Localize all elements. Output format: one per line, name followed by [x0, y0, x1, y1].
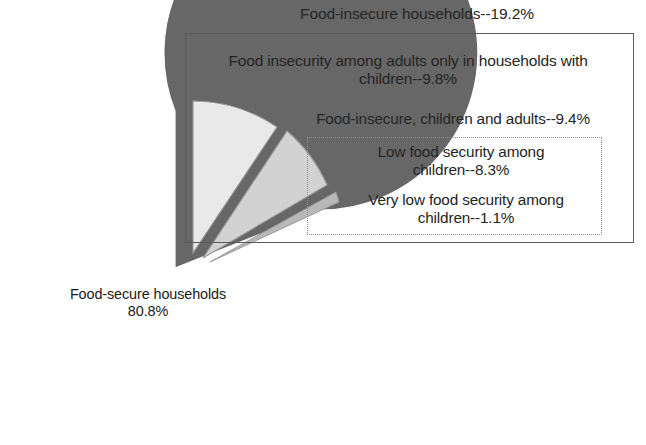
label-food-insecure-children-and-adults: Food-insecure, children and adults--9.4% — [270, 110, 636, 128]
label-food-insecure-households: Food-insecure households--19.2% — [207, 5, 627, 23]
label-very-low-food-security-among-children: Very low food security among children--1… — [300, 191, 632, 227]
label-low-food-security-among-children: Low food security among children--8.3% — [300, 143, 622, 179]
pie-chart-figure: Food-insecure households--19.2% Food ins… — [0, 0, 646, 445]
label-food-insecurity-adults-only: Food insecurity among adults only in hou… — [192, 52, 624, 89]
label-food-secure-households: Food-secure households 80.8% — [32, 286, 264, 320]
